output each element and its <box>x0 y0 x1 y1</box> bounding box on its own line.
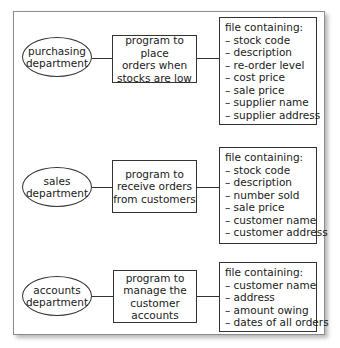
program-label-line: program to <box>123 272 186 285</box>
file-item: – stock code <box>225 34 316 47</box>
file-title: file containing: <box>225 266 316 279</box>
file-item: – supplier name <box>225 96 316 109</box>
file-items: – customer name– address– amount owing– … <box>225 279 316 329</box>
department-label-line: department <box>26 296 88 309</box>
department-label-line: accounts <box>26 284 88 297</box>
department-label-line: department <box>26 187 88 200</box>
file-items: – stock code– description– number sold– … <box>225 164 316 239</box>
file-item: – description <box>225 46 316 59</box>
file-items: – stock code– description– re-order leve… <box>225 34 316 122</box>
file-title: file containing: <box>225 21 316 34</box>
program-label-line: program to <box>113 168 196 181</box>
connector-line <box>197 296 219 297</box>
program-label-line: program to place <box>113 34 196 59</box>
file-item: – customer name <box>225 214 316 227</box>
connector-line <box>92 187 112 188</box>
program-label-line: manage the <box>123 284 186 297</box>
program-box-sales: program to receive orders from customers <box>112 160 197 213</box>
file-box-accounts: file containing: – customer name– addres… <box>219 262 317 332</box>
file-box-purchasing: file containing: – stock code– descripti… <box>219 17 317 125</box>
connector-line <box>197 58 219 59</box>
department-accounts: accounts department <box>22 276 92 316</box>
program-label-line: orders when <box>113 59 196 72</box>
file-title: file containing: <box>225 151 316 164</box>
file-item: – supplier address <box>225 109 316 122</box>
file-item: – description <box>225 176 316 189</box>
department-label-line: sales <box>26 175 88 188</box>
file-item: – re-order level <box>225 59 316 72</box>
department-label-line: department <box>26 57 88 70</box>
program-label-line: stocks are low <box>113 72 196 85</box>
program-label-line: from customers <box>113 193 196 206</box>
program-box-accounts: program to manage the customer accounts <box>113 270 197 323</box>
file-item: – cost price <box>225 71 316 84</box>
file-item: – customer address <box>225 226 316 239</box>
file-box-sales: file containing: – stock code– descripti… <box>219 147 317 244</box>
department-label-line: purchasing <box>26 45 88 58</box>
file-item: – dates of all orders <box>225 316 316 329</box>
department-purchasing: purchasing department <box>22 37 92 77</box>
file-item: – stock code <box>225 164 316 177</box>
department-sales: sales department <box>22 167 92 207</box>
connector-line <box>92 58 112 59</box>
program-label-line: receive orders <box>113 180 196 193</box>
program-box-purchasing: program to place orders when stocks are … <box>112 35 197 83</box>
file-item: – amount owing <box>225 304 316 317</box>
connector-line <box>92 296 113 297</box>
file-item: – address <box>225 291 316 304</box>
connector-line <box>197 187 219 188</box>
file-item: – customer name <box>225 279 316 292</box>
file-item: – sale price <box>225 84 316 97</box>
file-item: – sale price <box>225 201 316 214</box>
file-item: – number sold <box>225 189 316 202</box>
program-label-line: accounts <box>123 309 186 322</box>
program-label-line: customer <box>123 297 186 310</box>
